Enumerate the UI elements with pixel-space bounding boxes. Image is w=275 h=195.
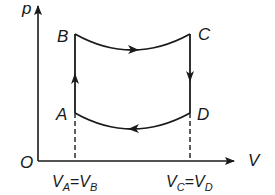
x-axis-label: V xyxy=(248,151,261,170)
tick-label-vc-vd: VC=VD xyxy=(166,173,213,193)
tick-label-va-vb: VA=VB xyxy=(52,173,97,193)
process-da xyxy=(75,113,190,133)
process-bc xyxy=(75,34,190,54)
process-cd xyxy=(186,34,194,113)
point-label-b: B xyxy=(57,27,68,46)
process-ab xyxy=(71,34,79,113)
y-axis-label: p xyxy=(21,0,31,18)
origin-label: O xyxy=(20,153,33,172)
point-label-a: A xyxy=(55,105,67,124)
point-label-d: D xyxy=(197,105,209,124)
pv-diagram: p V O B C A D VA=VB VC=VD xyxy=(0,0,275,195)
point-label-c: C xyxy=(198,25,211,44)
